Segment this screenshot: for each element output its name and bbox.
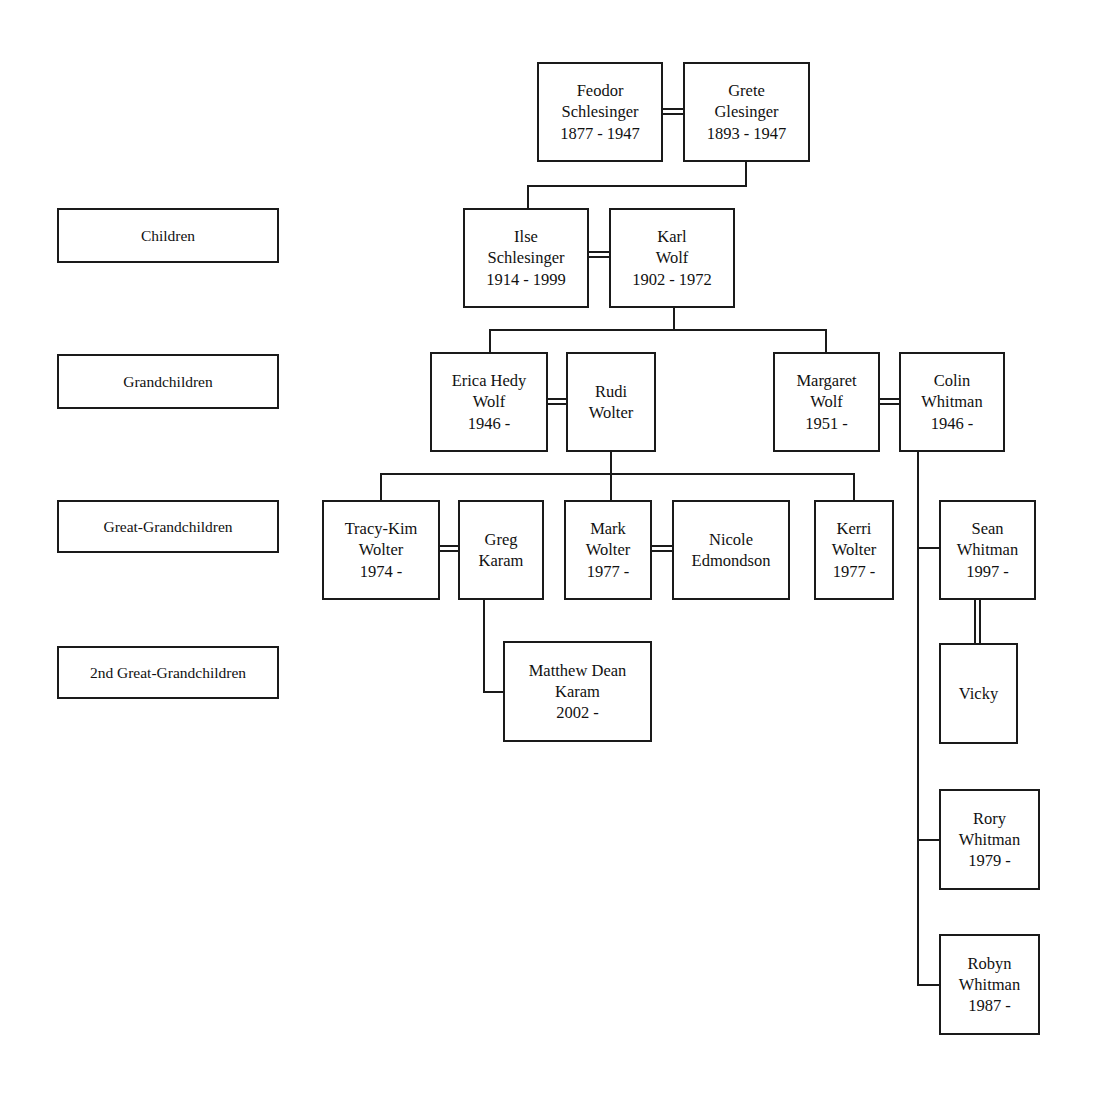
person-dates: 1977 - bbox=[833, 561, 876, 582]
person-name-line1: Colin bbox=[934, 370, 971, 391]
legend-children: Children bbox=[57, 208, 279, 263]
descent-line-into-kerri bbox=[853, 473, 855, 501]
marriage-link-tracykim-greg bbox=[438, 545, 460, 552]
person-box-rudi-wolter[interactable]: Rudi Wolter bbox=[566, 352, 656, 452]
person-name-line2: Karam bbox=[555, 681, 600, 702]
person-box-sean-whitman[interactable]: Sean Whitman 1997 - bbox=[939, 500, 1036, 600]
person-box-matthew-dean-karam[interactable]: Matthew Dean Karam 2002 - bbox=[503, 641, 652, 742]
legend-great-grandchildren: Great-Grandchildren bbox=[57, 500, 279, 553]
descent-line-grete-across bbox=[527, 185, 747, 187]
person-name-line1: Ilse bbox=[514, 226, 538, 247]
person-name-line1: Kerri bbox=[837, 518, 872, 539]
person-box-greg-karam[interactable]: Greg Karam bbox=[458, 500, 544, 600]
person-name-line2: Edmondson bbox=[692, 550, 771, 571]
descent-line-into-sean bbox=[917, 547, 941, 549]
person-name-line1: Feodor bbox=[577, 80, 624, 101]
marriage-link-mark-nicole bbox=[650, 545, 674, 552]
descent-line-greg-down bbox=[483, 600, 485, 693]
person-name-line2: Whitman bbox=[959, 974, 1020, 995]
person-name-line2: Karam bbox=[479, 550, 524, 571]
person-name-line1: Vicky bbox=[959, 683, 998, 704]
person-name-line2: Glesinger bbox=[714, 101, 778, 122]
person-box-nicole-edmondson[interactable]: Nicole Edmondson bbox=[672, 500, 790, 600]
marriage-link-sean-vicky bbox=[974, 598, 981, 645]
person-dates: 2002 - bbox=[556, 702, 599, 723]
person-box-ilse-schlesinger[interactable]: Ilse Schlesinger 1914 - 1999 bbox=[463, 208, 589, 308]
person-name-line1: Sean bbox=[971, 518, 1003, 539]
person-name-line1: Rory bbox=[973, 808, 1006, 829]
person-box-margaret-wolf[interactable]: Margaret Wolf 1951 - bbox=[773, 352, 880, 452]
person-dates: 1987 - bbox=[968, 995, 1011, 1016]
person-box-grete-glesinger[interactable]: Grete Glesinger 1893 - 1947 bbox=[683, 62, 810, 162]
person-name-line2: Wolter bbox=[589, 402, 634, 423]
legend-grandchildren: Grandchildren bbox=[57, 354, 279, 409]
person-box-colin-whitman[interactable]: Colin Whitman 1946 - bbox=[899, 352, 1005, 452]
person-name-line1: Erica Hedy bbox=[452, 370, 527, 391]
marriage-link-ilse-karl bbox=[588, 251, 610, 258]
family-tree-diagram: Children Grandchildren Great-Grandchildr… bbox=[0, 0, 1097, 1098]
person-name-line1: Mark bbox=[590, 518, 626, 539]
descent-line-into-ilse bbox=[527, 185, 529, 210]
person-name-line1: Margaret bbox=[796, 370, 856, 391]
person-name-line2: Whitman bbox=[957, 539, 1018, 560]
person-dates: 1951 - bbox=[805, 413, 848, 434]
descent-line-into-robyn bbox=[917, 984, 941, 986]
person-name-line1: Robyn bbox=[967, 953, 1011, 974]
descent-line-grete-down bbox=[745, 162, 747, 186]
descent-line-into-margaret bbox=[825, 329, 827, 354]
descent-line-into-mark bbox=[610, 473, 612, 501]
person-box-feodor-schlesinger[interactable]: Feodor Schlesinger 1877 - 1947 bbox=[537, 62, 663, 162]
person-name-line1: Tracy-Kim bbox=[345, 518, 418, 539]
person-name-line2: Wolter bbox=[832, 539, 877, 560]
person-box-vicky[interactable]: Vicky bbox=[939, 643, 1018, 744]
person-name-line1: Rudi bbox=[595, 381, 627, 402]
person-box-erica-hedy-wolf[interactable]: Erica Hedy Wolf 1946 - bbox=[430, 352, 548, 452]
person-dates: 1977 - bbox=[587, 561, 630, 582]
person-name-line2: Wolf bbox=[810, 391, 843, 412]
person-dates: 1893 - 1947 bbox=[707, 123, 787, 144]
person-name-line2: Schlesinger bbox=[562, 101, 639, 122]
descent-line-rudi-down bbox=[610, 452, 612, 475]
person-dates: 1946 - bbox=[931, 413, 974, 434]
person-name-line1: Matthew Dean bbox=[529, 660, 627, 681]
person-dates: 1974 - bbox=[360, 561, 403, 582]
descent-line-into-rory bbox=[917, 839, 941, 841]
descent-line-into-matthew bbox=[483, 691, 505, 693]
person-name-line2: Whitman bbox=[921, 391, 982, 412]
person-box-karl-wolf[interactable]: Karl Wolf 1902 - 1972 bbox=[609, 208, 735, 308]
legend-second-great-grandchildren-label: 2nd Great-Grandchildren bbox=[90, 664, 246, 682]
descent-line-karl-down bbox=[673, 306, 675, 331]
person-dates: 1997 - bbox=[966, 561, 1009, 582]
person-box-rory-whitman[interactable]: Rory Whitman 1979 - bbox=[939, 789, 1040, 890]
legend-second-great-grandchildren: 2nd Great-Grandchildren bbox=[57, 646, 279, 699]
person-name-line2: Wolter bbox=[359, 539, 404, 560]
person-dates: 1914 - 1999 bbox=[486, 269, 566, 290]
person-dates: 1979 - bbox=[968, 850, 1011, 871]
person-name-line1: Nicole bbox=[709, 529, 753, 550]
person-box-kerri-wolter[interactable]: Kerri Wolter 1977 - bbox=[814, 500, 894, 600]
descent-line-into-tracykim bbox=[380, 473, 382, 501]
sibling-bar-great-grandchildren bbox=[380, 473, 855, 475]
person-name-line1: Grete bbox=[728, 80, 765, 101]
marriage-link-margaret-colin bbox=[878, 398, 901, 405]
person-box-mark-wolter[interactable]: Mark Wolter 1977 - bbox=[564, 500, 652, 600]
person-box-tracy-kim-wolter[interactable]: Tracy-Kim Wolter 1974 - bbox=[322, 500, 440, 600]
person-name-line2: Wolf bbox=[656, 247, 689, 268]
person-name-line2: Wolf bbox=[473, 391, 506, 412]
person-name-line1: Greg bbox=[485, 529, 518, 550]
person-box-robyn-whitman[interactable]: Robyn Whitman 1987 - bbox=[939, 934, 1040, 1035]
person-dates: 1877 - 1947 bbox=[560, 123, 640, 144]
marriage-link-feodor-grete bbox=[661, 108, 685, 115]
person-name-line1: Karl bbox=[657, 226, 686, 247]
person-dates: 1902 - 1972 bbox=[632, 269, 712, 290]
legend-children-label: Children bbox=[141, 227, 195, 245]
legend-great-grandchildren-label: Great-Grandchildren bbox=[103, 518, 232, 536]
person-name-line2: Whitman bbox=[959, 829, 1020, 850]
marriage-link-erica-rudi bbox=[546, 398, 568, 405]
person-name-line2: Schlesinger bbox=[488, 247, 565, 268]
person-name-line2: Wolter bbox=[586, 539, 631, 560]
descent-spine-colin bbox=[917, 452, 919, 986]
legend-grandchildren-label: Grandchildren bbox=[123, 373, 213, 391]
sibling-bar-grandchildren bbox=[489, 329, 827, 331]
descent-line-into-erica bbox=[489, 329, 491, 354]
